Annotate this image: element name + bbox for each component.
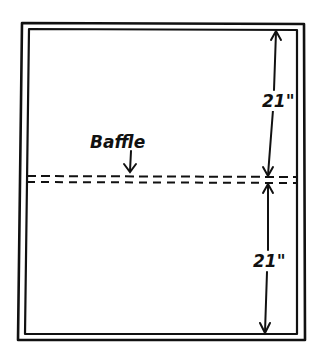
baffle-line-lower bbox=[27, 182, 297, 183]
baffle-label: Baffle bbox=[90, 134, 145, 151]
baffle-line-upper bbox=[27, 176, 297, 177]
frame-diagram bbox=[0, 0, 324, 361]
baffle-pointer-arrow-icon bbox=[124, 151, 136, 172]
top-dimension-label: 21" bbox=[262, 92, 295, 111]
bottom-dimension-label: 21" bbox=[253, 252, 286, 271]
